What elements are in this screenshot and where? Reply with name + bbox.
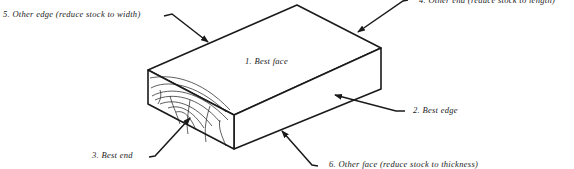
board-drawing xyxy=(0,0,574,169)
label-best-face: 1. Best face xyxy=(245,56,288,66)
label-other-end: 4. Other end (reduce stock to length) xyxy=(419,0,555,5)
board-outline xyxy=(148,5,381,149)
label-best-end: 3. Best end xyxy=(92,150,133,160)
board-diagram: 1. Best face 2. Best edge 3. Best end 4.… xyxy=(0,0,574,169)
label-other-face: 6. Other face (reduce stock to thickness… xyxy=(329,159,478,169)
label-other-edge: 5. Other edge (reduce stock to width) xyxy=(3,9,141,19)
label-best-edge: 2. Best edge xyxy=(413,105,458,115)
